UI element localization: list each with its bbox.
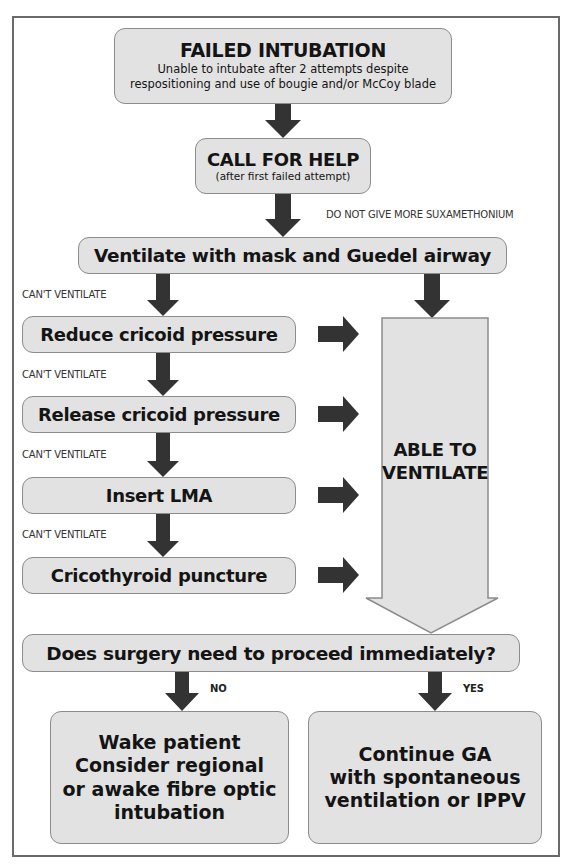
arrow-down-icon xyxy=(413,274,451,318)
wake-patient-node: Wake patient Consider regional or awake … xyxy=(50,711,289,844)
call-for-help-subtitle: (after first failed attempt) xyxy=(216,170,351,182)
arrow-down-icon xyxy=(264,104,302,138)
cricothyroid-title: Cricothyroid puncture xyxy=(51,565,267,586)
reduce-cricoid-title: Reduce cricoid pressure xyxy=(40,324,277,345)
continue-ga-node: Continue GA with spontaneous ventilation… xyxy=(308,711,542,844)
wake-patient-line3: or awake fibre optic xyxy=(63,778,277,801)
ventilate-title: Ventilate with mask and Guedel airway xyxy=(94,245,491,266)
arrow-down-icon xyxy=(146,433,180,477)
continue-ga-line2: with spontaneous xyxy=(330,766,521,789)
arrow-down-icon xyxy=(146,514,180,557)
arrow-right-icon xyxy=(318,316,359,352)
yes-label: YES xyxy=(463,683,484,694)
failed-intubation-node: FAILED INTUBATION Unable to intubate aft… xyxy=(114,28,452,104)
decision-node: Does surgery need to proceed immediately… xyxy=(22,634,520,672)
arrow-down-icon xyxy=(146,274,180,316)
cant-ventilate-label-1: CAN'T VENTILATE xyxy=(22,289,106,300)
arrow-down-icon xyxy=(164,672,200,711)
insert-lma-title: Insert LMA xyxy=(106,485,213,506)
call-for-help-title: CALL FOR HELP xyxy=(207,150,359,171)
arrow-right-icon xyxy=(318,557,359,593)
arrow-down-icon xyxy=(264,194,302,237)
able-to-ventilate-line2: VENTILATE xyxy=(382,461,488,484)
arrow-right-icon xyxy=(318,477,359,513)
decision-title: Does surgery need to proceed immediately… xyxy=(46,643,495,664)
cant-ventilate-label-3: CAN'T VENTILATE xyxy=(22,449,106,460)
call-for-help-node: CALL FOR HELP (after first failed attemp… xyxy=(195,138,371,194)
insert-lma-node: Insert LMA xyxy=(22,477,296,514)
ventilate-node: Ventilate with mask and Guedel airway xyxy=(78,237,507,274)
cricothyroid-node: Cricothyroid puncture xyxy=(22,557,296,594)
failed-intubation-subtitle-1: Unable to intubate after 2 attempts desp… xyxy=(157,62,408,77)
able-to-ventilate-line1: ABLE TO xyxy=(382,438,488,461)
able-to-ventilate-node: ABLE TO VENTILATE xyxy=(382,438,488,485)
wake-patient-line1: Wake patient xyxy=(98,731,240,754)
continue-ga-line1: Continue GA xyxy=(359,743,492,766)
release-cricoid-title: Release cricoid pressure xyxy=(38,404,280,425)
continue-ga-line3: ventilation or IPPV xyxy=(324,789,525,812)
cant-ventilate-label-2: CAN'T VENTILATE xyxy=(22,369,106,380)
failed-intubation-title: FAILED INTUBATION xyxy=(180,40,386,62)
arrow-right-icon xyxy=(318,396,359,432)
cant-ventilate-label-4: CAN'T VENTILATE xyxy=(22,529,106,540)
arrow-down-icon xyxy=(417,672,453,711)
failed-intubation-subtitle-2: respositioning and use of bougie and/or … xyxy=(130,77,436,92)
wake-patient-line2: Consider regional xyxy=(75,754,264,777)
no-suxamethonium-label: DO NOT GIVE MORE SUXAMETHONIUM xyxy=(326,209,514,220)
release-cricoid-node: Release cricoid pressure xyxy=(22,396,296,433)
arrow-down-icon xyxy=(146,353,180,396)
wake-patient-line4: intubation xyxy=(114,801,225,824)
reduce-cricoid-node: Reduce cricoid pressure xyxy=(22,316,296,353)
no-label: NO xyxy=(210,683,226,694)
